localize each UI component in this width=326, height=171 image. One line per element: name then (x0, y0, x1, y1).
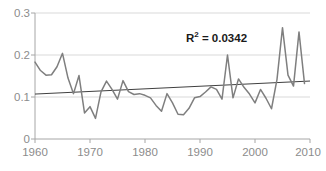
data-series-line (35, 28, 305, 119)
plot-area (0, 0, 326, 171)
chart-container: 0.3 0.2 0.1 0 1960 1970 1980 1990 2000 2… (0, 0, 326, 171)
r-squared-annotation: R2 = 0.0342 (186, 30, 247, 44)
axis-ticks (31, 13, 310, 143)
r-squared-value: = 0.0342 (199, 32, 247, 44)
gridlines (35, 13, 310, 139)
